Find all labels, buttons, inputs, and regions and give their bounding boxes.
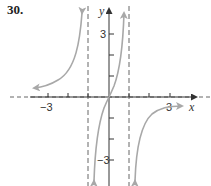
x-tick-label-neg3: −3 [40,101,53,113]
curve-left-branch [34,13,82,88]
y-axis-label: y [98,4,105,18]
graph: −3 3 3 −3 x y [0,0,211,186]
y-tick-label-3: 3 [100,28,106,40]
x-axis-label: x [188,100,195,114]
curve-right-branch [135,106,182,181]
y-tick-label-neg3: −3 [97,154,110,166]
